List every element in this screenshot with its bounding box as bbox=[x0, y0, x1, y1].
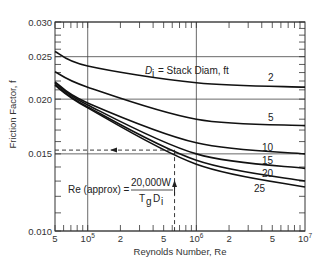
x-tick-label: 2 bbox=[118, 233, 123, 244]
axis-labels: 0.0300.0250.0200.0150.01051052510625107R… bbox=[7, 17, 312, 258]
x-tick-label: 5 bbox=[270, 233, 275, 244]
legend-label: D i = Stack Diam, ft bbox=[145, 65, 229, 79]
y-axis-title: Friction Factor, f bbox=[7, 80, 18, 148]
y-tick-label: 0.025 bbox=[28, 51, 52, 62]
grid-lines bbox=[55, 22, 305, 231]
x-tick-label: 2 bbox=[226, 233, 231, 244]
curve-label-10: 10 bbox=[262, 142, 274, 153]
formula-denominator-t-sub: g bbox=[146, 196, 152, 207]
curve-label-25: 25 bbox=[254, 183, 266, 194]
curve-label-20: 20 bbox=[262, 168, 274, 179]
plot-border bbox=[55, 22, 305, 231]
axis-ticks bbox=[55, 22, 305, 231]
curve-label-5: 5 bbox=[268, 112, 274, 123]
arrow-left-icon bbox=[110, 148, 117, 153]
y-tick-label: 0.010 bbox=[28, 226, 52, 237]
curve-label-15: 15 bbox=[262, 155, 274, 166]
curve-label-2: 2 bbox=[268, 72, 274, 83]
x-tick-label: 5 bbox=[52, 233, 57, 244]
y-tick-label: 0.020 bbox=[28, 94, 52, 105]
y-tick-label: 0.030 bbox=[28, 17, 52, 28]
formula-denominator-d: D bbox=[153, 193, 160, 204]
y-tick-label: 0.015 bbox=[28, 148, 52, 159]
formula-denominator-t: T bbox=[139, 193, 145, 204]
x-axis-title: Reynolds Number, Re bbox=[134, 246, 227, 257]
friction-factor-chart: 0.0300.0250.0200.0150.01051052510625107R… bbox=[0, 0, 323, 267]
formula-denominator-d-sub: i bbox=[161, 196, 163, 207]
x-tick-label: 107 bbox=[298, 232, 313, 244]
plot-frame bbox=[55, 22, 305, 231]
formula-numerator: 20,000W bbox=[131, 177, 172, 188]
x-tick-label: 105 bbox=[81, 232, 96, 244]
x-tick-label: 106 bbox=[189, 232, 204, 244]
formula-lhs: Re (approx) = bbox=[68, 184, 130, 195]
x-tick-label: 5 bbox=[161, 233, 166, 244]
legend-text: = Stack Diam, ft bbox=[158, 65, 229, 76]
legend-d-sub: i bbox=[152, 68, 154, 79]
reynolds-formula: Re (approx) = 20,000W T g D i bbox=[68, 177, 173, 207]
